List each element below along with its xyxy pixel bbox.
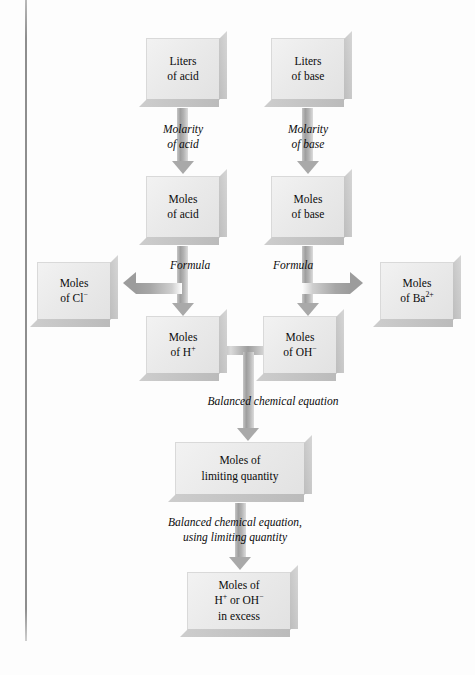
box-liters-of-acid-line2: of acid [167,70,199,82]
box-moles-in-excess-line1: Moles of [218,579,259,591]
box-liters-of-base-line2: of base [292,70,325,82]
box-moles-of-hydroxide-ion-charge: − [312,344,316,353]
box-moles-of-hydrogen-ion-line1: Moles [169,331,198,343]
box-moles-of-barium-line2: of Ba [400,292,425,304]
caption-molarity-of-acid-line1: Molarity [163,123,203,135]
box-moles-in-excess: Moles of H+ or OH− in excess [187,572,291,630]
box-moles-of-limiting-quantity-line2: limiting quantity [202,470,279,482]
caption-molarity-of-base: Molarity of base [258,122,358,152]
arrow-head-formula-acid [172,303,194,316]
box-liters-of-base-line1: Liters [295,55,322,67]
caption-balanced-chemical-equation: Balanced chemical equation [163,394,383,409]
box-moles-of-hydrogen-ion-charge: + [191,344,195,353]
caption-molarity-of-base-line2: of base [292,138,325,150]
box-moles-of-barium-line1: Moles [403,277,432,289]
box-moles-in-excess-oh-charge: − [259,593,263,602]
box-moles-of-acid-line1: Moles [169,193,198,205]
box-moles-of-hydrogen-ion-line2: of H [170,346,191,358]
box-moles-in-excess-line3: in excess [218,610,260,622]
caption-formula-left-text: Formula [170,259,210,271]
box-moles-of-chloride-line2: of Cl [60,292,83,304]
caption-balanced-equation-limiting-quantity-line2: using limiting quantity [183,531,287,543]
box-moles-of-hydroxide-ion-line1: Moles [286,331,315,343]
arrow-head-formula-to-barium [350,272,363,294]
box-moles-of-base: Moles of base [271,176,345,238]
box-moles-of-chloride: Moles of Cl− [37,262,111,320]
caption-balanced-equation-limiting-quantity-line1: Balanced chemical equation, [168,516,302,528]
arrow-shaft-formula-base [302,246,313,303]
arrow-head-balanced-equation-limiting [229,557,251,570]
arrow-head-molarity-acid [172,161,194,174]
box-moles-of-barium-charge: 2+ [425,290,433,299]
box-moles-in-excess-conjunction: or OH [227,594,259,606]
caption-molarity-of-acid-line2: of acid [167,138,199,150]
box-moles-of-limiting-quantity: Moles of limiting quantity [175,442,305,495]
box-moles-of-base-line2: of base [292,208,325,220]
caption-formula-left: Formula [145,258,235,273]
arrow-shaft-formula-acid [177,246,188,303]
page-margin-rule [25,0,27,641]
caption-formula-right: Formula [248,258,338,273]
box-moles-of-base-line1: Moles [294,193,323,205]
box-moles-of-barium: Moles of Ba2+ [380,262,454,320]
arrow-head-formula-to-chloride [123,272,136,294]
caption-balanced-equation-limiting-quantity: Balanced chemical equation, using limiti… [140,515,330,545]
box-moles-of-chloride-line1: Moles [60,277,89,289]
box-moles-in-excess-h: H [214,594,222,606]
box-moles-of-acid-line2: of acid [167,208,199,220]
box-moles-of-hydroxide-ion-line2: of OH [283,346,312,358]
arrow-head-formula-base [297,303,319,316]
box-liters-of-acid-line1: Liters [170,55,197,67]
caption-formula-right-text: Formula [273,259,313,271]
arrow-head-molarity-base [297,161,319,174]
box-moles-of-acid: Moles of acid [146,176,220,238]
arrow-head-balanced-equation [237,428,259,441]
arrow-shaft-balanced-equation [243,352,254,434]
caption-molarity-of-acid: Molarity of acid [133,122,233,152]
box-liters-of-acid: Liters of acid [146,38,220,100]
caption-molarity-of-base-line1: Molarity [288,123,328,135]
arrow-shaft-formula-to-barium [302,283,350,294]
diagram-canvas: Liters of acid Liters of base Molarity o… [0,0,475,675]
box-moles-of-chloride-charge: − [83,290,87,299]
box-moles-of-hydrogen-ion: Moles of H+ [146,316,220,374]
box-moles-of-limiting-quantity-line1: Moles of [219,454,260,466]
caption-balanced-chemical-equation-text: Balanced chemical equation [208,395,339,407]
box-liters-of-base: Liters of base [271,38,345,100]
arrow-shaft-formula-to-chloride [136,283,182,294]
box-moles-of-hydroxide-ion: Moles of OH− [263,316,337,374]
